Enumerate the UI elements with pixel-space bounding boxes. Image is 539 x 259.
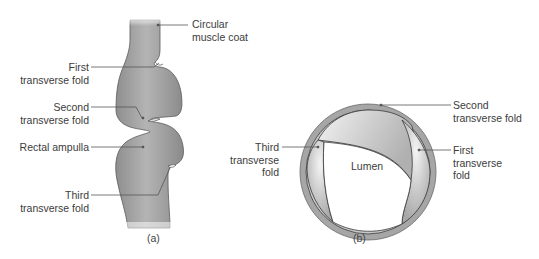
caption-b: (b) [353,232,366,244]
rectum-longitudinal-view [116,16,184,232]
label-line: transverse fold [20,114,89,127]
label-line: Second [453,99,522,112]
label-line: transverse [230,154,279,167]
label-line: muscle coat [192,31,248,44]
label-line: Circular [192,18,248,31]
label-line: fold [230,166,279,179]
label-line: Third [230,141,279,154]
label-line: First [453,144,502,157]
label-line: transverse fold [20,202,89,215]
label-line: fold [453,169,502,182]
diagram-canvas [0,0,539,259]
label-second-transverse-fold-a: Second transverse fold [20,101,89,126]
caption-a: (a) [147,232,160,244]
label-line: Third [20,189,89,202]
label-lumen: Lumen [351,160,383,173]
label-rectal-ampulla: Rectal ampulla [20,141,89,154]
label-line: transverse [453,157,502,170]
label-line: First [20,61,89,74]
label-line: transverse fold [453,112,522,125]
label-first-transverse-fold-b: First transverse fold [453,144,502,182]
label-line: transverse fold [20,74,89,87]
label-line: Rectal ampulla [20,141,89,154]
label-third-transverse-fold-a: Third transverse fold [20,189,89,214]
label-first-transverse-fold-a: First transverse fold [20,61,89,86]
label-line: Second [20,101,89,114]
label-second-transverse-fold-b: Second transverse fold [453,99,522,124]
label-third-transverse-fold-b: Third transverse fold [230,141,279,179]
label-circular-muscle-coat: Circular muscle coat [192,18,248,43]
